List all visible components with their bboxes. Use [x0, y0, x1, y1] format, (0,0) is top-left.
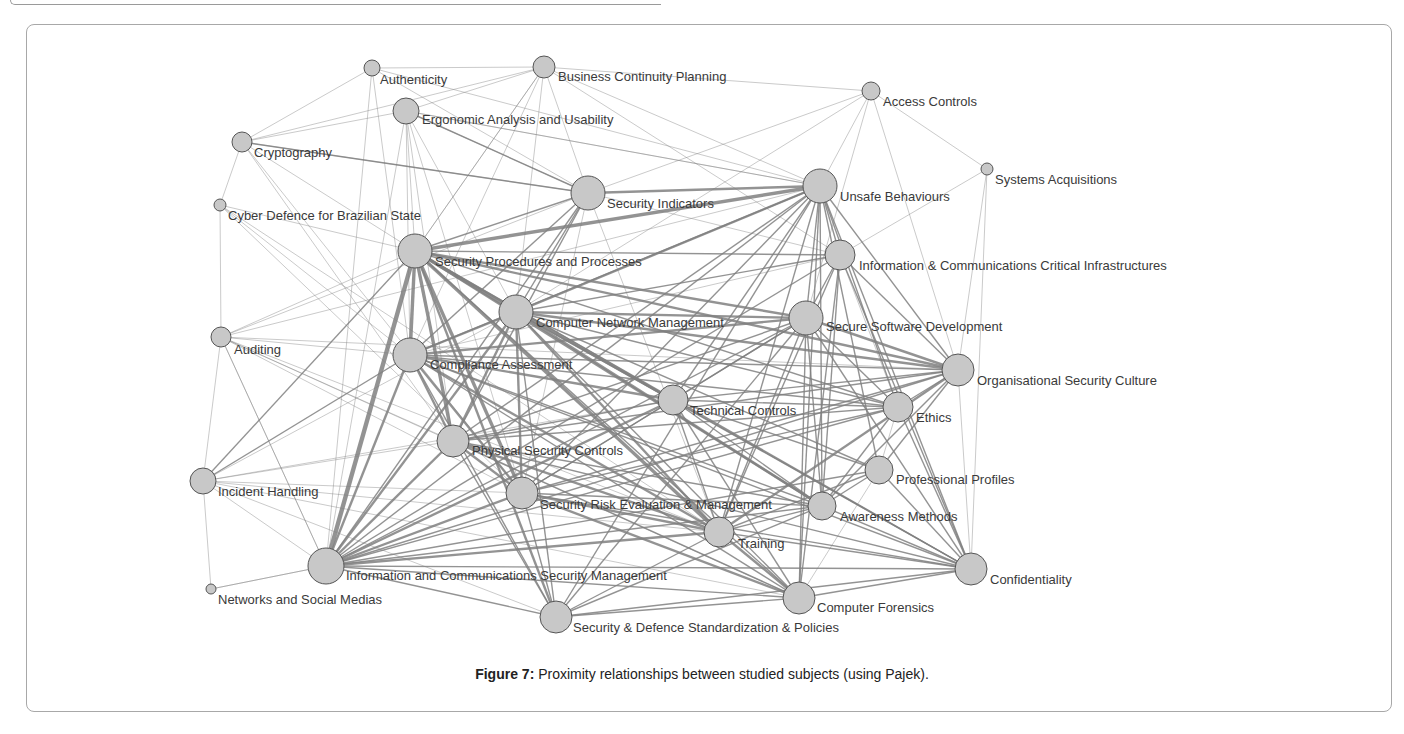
node-label-access: Access Controls: [883, 94, 977, 109]
node-label-iccritical: Information & Communications Critical In…: [859, 258, 1167, 273]
node-crypto: [232, 132, 252, 152]
node-ethics: [883, 392, 913, 422]
edge-ergonomic-compliance: [406, 111, 410, 355]
node-cyberdef: [214, 199, 226, 211]
node-sysacq: [981, 163, 993, 175]
edge-secproc-auditing: [221, 251, 415, 337]
node-label-crypto: Cryptography: [254, 145, 333, 160]
edge-bcp-iccritical: [544, 67, 840, 255]
node-label-secind: Security Indicators: [607, 196, 714, 211]
figure-caption: Figure 7: Proximity relationships betwee…: [0, 666, 1404, 682]
node-label-physical: Physical Security Controls: [472, 443, 623, 458]
node-icsm: [308, 548, 344, 584]
node-label-authenticity: Authenticity: [380, 72, 448, 87]
node-label-forensics: Computer Forensics: [817, 600, 935, 615]
edge-unsafe-orgculture: [820, 186, 958, 370]
edge-unsafe-techctrl: [673, 186, 820, 400]
node-confidentiality: [955, 553, 987, 585]
node-physical: [437, 425, 469, 457]
node-label-awareness: Awareness Methods: [840, 509, 958, 524]
edge-standards-forensics: [556, 598, 799, 617]
node-iccritical: [825, 240, 855, 270]
edge-auditing-orgculture: [221, 337, 958, 370]
node-label-techctrl: Technical Controls: [690, 403, 797, 418]
node-label-orgculture: Organisational Security Culture: [977, 373, 1157, 388]
node-label-bcp: Business Continuity Planning: [558, 69, 726, 84]
node-label-sysacq: Systems Acquisitions: [995, 172, 1118, 187]
node-auditing: [211, 327, 231, 347]
node-secproc: [398, 234, 432, 268]
node-forensics: [783, 582, 815, 614]
edge-forensics-confidentiality: [799, 569, 971, 598]
node-riskeval: [506, 477, 538, 509]
caption-text: Proximity relationships between studied …: [534, 666, 929, 682]
node-label-auditing: Auditing: [234, 342, 281, 357]
edge-auditing-icsm: [221, 337, 326, 566]
edge-secind-bcp: [544, 67, 588, 193]
edge-secproc-secind: [415, 193, 588, 251]
node-unsafe: [803, 169, 837, 203]
node-cnm: [499, 295, 533, 329]
node-label-incident: Incident Handling: [218, 484, 318, 499]
edge-cyberdef-auditing: [220, 205, 221, 337]
edge-orgculture-techctrl: [673, 370, 958, 400]
edge-crypto-physical: [242, 142, 453, 441]
node-training: [704, 517, 734, 547]
node-label-unsafe: Unsafe Behaviours: [840, 189, 950, 204]
node-label-networks: Networks and Social Medias: [218, 592, 383, 607]
edge-securesw-forensics: [799, 318, 806, 598]
node-profprof: [865, 456, 893, 484]
edge-authenticity-bcp: [372, 67, 544, 68]
network-graph: AuthenticityBusiness Continuity Planning…: [0, 0, 1404, 734]
edge-icsm-orgculture: [326, 370, 958, 566]
node-label-icsm: Information and Communications Security …: [346, 568, 667, 583]
node-label-riskeval: Security Risk Evaluation & Management: [540, 497, 772, 512]
node-awareness: [808, 492, 836, 520]
node-ergonomic: [393, 98, 419, 124]
edge-incident-networks: [203, 481, 211, 589]
node-bcp: [533, 56, 555, 78]
edge-auditing-incident: [203, 337, 221, 481]
node-label-ethics: Ethics: [916, 410, 952, 425]
node-label-cnm: Computer Network Management: [536, 315, 724, 330]
edge-authenticity-crypto: [242, 68, 372, 142]
node-label-ergonomic: Ergonomic Analysis and Usability: [422, 112, 614, 127]
node-label-confidentiality: Confidentiality: [990, 572, 1072, 587]
edge-bcp-secproc: [415, 67, 544, 251]
node-orgculture: [942, 354, 974, 386]
node-secind: [571, 176, 605, 210]
node-label-compliance: Compliance Assessment: [430, 357, 573, 372]
edge-iccritical-sysacq: [840, 169, 987, 255]
edge-unsafe-awareness: [820, 186, 822, 506]
node-label-securesw: Secure Software Development: [826, 319, 1003, 334]
caption-label: Figure 7:: [475, 666, 534, 682]
node-label-standards: Security & Defence Standardization & Pol…: [573, 620, 839, 635]
node-label-secproc: Security Procedures and Processes: [435, 254, 642, 269]
node-compliance: [393, 338, 427, 372]
node-networks: [206, 584, 216, 594]
node-authenticity: [364, 60, 380, 76]
node-label-training: Training: [738, 536, 784, 551]
node-techctrl: [658, 385, 688, 415]
edge-incident-compliance: [203, 355, 410, 481]
edge-crypto-riskeval: [242, 142, 522, 493]
node-incident: [190, 468, 216, 494]
node-access: [862, 82, 880, 100]
node-standards: [540, 601, 572, 633]
node-label-cyberdef: Cyber Defence for Brazilian State: [228, 208, 421, 223]
node-securesw: [789, 301, 823, 335]
node-label-profprof: Professional Profiles: [896, 472, 1015, 487]
